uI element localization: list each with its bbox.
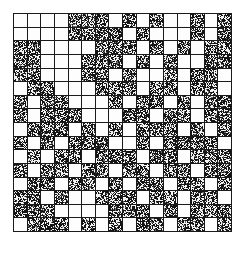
grid-cell-empty[interactable] bbox=[14, 82, 28, 96]
grid-cell-noise[interactable] bbox=[95, 163, 109, 177]
grid-cell-noise[interactable] bbox=[14, 136, 28, 150]
grid-cell-noise[interactable] bbox=[204, 150, 218, 164]
grid-cell-noise[interactable] bbox=[14, 204, 28, 218]
grid-cell-noise[interactable] bbox=[123, 41, 137, 55]
grid-cell-noise[interactable] bbox=[204, 68, 218, 82]
grid-cell-empty[interactable] bbox=[109, 68, 123, 82]
grid-cell-empty[interactable] bbox=[41, 191, 55, 205]
grid-cell-noise[interactable] bbox=[82, 177, 96, 191]
grid-cell-empty[interactable] bbox=[218, 68, 232, 82]
grid-cell-empty[interactable] bbox=[191, 163, 205, 177]
grid-cell-noise[interactable] bbox=[27, 82, 41, 96]
grid-cell-noise[interactable] bbox=[218, 95, 232, 109]
grid-cell-noise[interactable] bbox=[150, 82, 164, 96]
grid-cell-noise[interactable] bbox=[204, 136, 218, 150]
grid-cell-noise[interactable] bbox=[14, 109, 28, 123]
grid-cell-empty[interactable] bbox=[68, 82, 82, 96]
grid-cell-empty[interactable] bbox=[14, 14, 28, 28]
grid-cell-noise[interactable] bbox=[218, 27, 232, 41]
grid-cell-noise[interactable] bbox=[95, 27, 109, 41]
grid-cell-noise[interactable] bbox=[68, 14, 82, 28]
grid-cell-noise[interactable] bbox=[14, 163, 28, 177]
grid-cell-empty[interactable] bbox=[95, 123, 109, 137]
grid-cell-empty[interactable] bbox=[27, 14, 41, 28]
grid-cell-empty[interactable] bbox=[41, 27, 55, 41]
grid-cell-empty[interactable] bbox=[123, 54, 137, 68]
grid-cell-empty[interactable] bbox=[150, 54, 164, 68]
grid-cell-noise[interactable] bbox=[27, 150, 41, 164]
grid-cell-noise[interactable] bbox=[41, 109, 55, 123]
grid-cell-noise[interactable] bbox=[27, 41, 41, 55]
grid-cell-noise[interactable] bbox=[123, 82, 137, 96]
grid-cell-noise[interactable] bbox=[177, 41, 191, 55]
grid-cell-noise[interactable] bbox=[109, 177, 123, 191]
grid-cell-empty[interactable] bbox=[68, 163, 82, 177]
grid-cell-noise[interactable] bbox=[54, 95, 68, 109]
grid-cell-noise[interactable] bbox=[136, 95, 150, 109]
grid-cell-noise[interactable] bbox=[27, 204, 41, 218]
grid-cell-noise[interactable] bbox=[109, 41, 123, 55]
grid-cell-empty[interactable] bbox=[27, 109, 41, 123]
grid-cell-empty[interactable] bbox=[27, 27, 41, 41]
grid-cell-empty[interactable] bbox=[163, 27, 177, 41]
grid-cell-noise[interactable] bbox=[95, 150, 109, 164]
grid-cell-noise[interactable] bbox=[163, 150, 177, 164]
grid-cell-noise[interactable] bbox=[109, 123, 123, 137]
grid-cell-noise[interactable] bbox=[177, 218, 191, 232]
grid-cell-noise[interactable] bbox=[109, 27, 123, 41]
grid-cell-noise[interactable] bbox=[163, 163, 177, 177]
grid-cell-empty[interactable] bbox=[68, 68, 82, 82]
grid-cell-noise[interactable] bbox=[82, 27, 96, 41]
grid-cell-empty[interactable] bbox=[163, 14, 177, 28]
grid-cell-empty[interactable] bbox=[95, 177, 109, 191]
grid-cell-noise[interactable] bbox=[123, 191, 137, 205]
grid-cell-empty[interactable] bbox=[54, 68, 68, 82]
grid-cell-noise[interactable] bbox=[123, 204, 137, 218]
grid-cell-noise[interactable] bbox=[109, 204, 123, 218]
grid-cell-empty[interactable] bbox=[177, 54, 191, 68]
grid-cell-empty[interactable] bbox=[54, 82, 68, 96]
grid-cell-empty[interactable] bbox=[177, 191, 191, 205]
grid-cell-empty[interactable] bbox=[163, 218, 177, 232]
grid-cell-noise[interactable] bbox=[95, 54, 109, 68]
grid-cell-noise[interactable] bbox=[150, 177, 164, 191]
grid-cell-empty[interactable] bbox=[68, 191, 82, 205]
grid-cell-empty[interactable] bbox=[177, 82, 191, 96]
grid-cell-noise[interactable] bbox=[136, 163, 150, 177]
grid-cell-empty[interactable] bbox=[109, 163, 123, 177]
grid-cell-empty[interactable] bbox=[14, 218, 28, 232]
grid-cell-noise[interactable] bbox=[218, 14, 232, 28]
grid-cell-noise[interactable] bbox=[14, 68, 28, 82]
grid-cell-noise[interactable] bbox=[82, 68, 96, 82]
grid-cell-noise[interactable] bbox=[204, 95, 218, 109]
grid-cell-empty[interactable] bbox=[27, 136, 41, 150]
grid-cell-noise[interactable] bbox=[204, 54, 218, 68]
grid-cell-noise[interactable] bbox=[123, 68, 137, 82]
grid-cell-empty[interactable] bbox=[177, 123, 191, 137]
grid-cell-noise[interactable] bbox=[41, 95, 55, 109]
grid-cell-noise[interactable] bbox=[218, 177, 232, 191]
grid-cell-empty[interactable] bbox=[82, 204, 96, 218]
grid-cell-noise[interactable] bbox=[95, 82, 109, 96]
grid-cell-empty[interactable] bbox=[109, 136, 123, 150]
grid-cell-empty[interactable] bbox=[204, 123, 218, 137]
grid-cell-noise[interactable] bbox=[41, 136, 55, 150]
grid-cell-empty[interactable] bbox=[14, 150, 28, 164]
grid-cell-noise[interactable] bbox=[82, 136, 96, 150]
grid-cell-noise[interactable] bbox=[27, 123, 41, 137]
grid-cell-noise[interactable] bbox=[136, 27, 150, 41]
grid-cell-noise[interactable] bbox=[41, 204, 55, 218]
grid-cell-noise[interactable] bbox=[191, 68, 205, 82]
grid-cell-empty[interactable] bbox=[204, 177, 218, 191]
grid-cell-empty[interactable] bbox=[68, 95, 82, 109]
grid-cell-empty[interactable] bbox=[123, 27, 137, 41]
grid-cell-noise[interactable] bbox=[191, 191, 205, 205]
grid-cell-noise[interactable] bbox=[123, 150, 137, 164]
grid-cell-empty[interactable] bbox=[95, 204, 109, 218]
grid-cell-noise[interactable] bbox=[218, 41, 232, 55]
grid-cell-noise[interactable] bbox=[95, 41, 109, 55]
grid-cell-noise[interactable] bbox=[109, 95, 123, 109]
grid-cell-noise[interactable] bbox=[163, 204, 177, 218]
grid-cell-empty[interactable] bbox=[191, 41, 205, 55]
grid-cell-noise[interactable] bbox=[54, 109, 68, 123]
